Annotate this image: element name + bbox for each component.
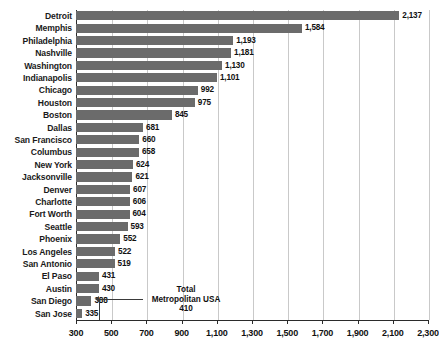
value-label: 335 [85, 308, 98, 320]
x-axis-tick [393, 320, 394, 324]
bar-row: Jacksonville621 [0, 171, 435, 183]
value-label: 1,181 [234, 47, 254, 59]
value-label: 604 [133, 208, 146, 220]
value-label: 681 [146, 122, 159, 134]
annotation-label-line1: Total [144, 285, 228, 295]
value-label: 606 [133, 196, 146, 208]
x-axis-tick-label: 1,300 [241, 328, 263, 338]
x-axis-tick [217, 320, 218, 324]
bar [76, 247, 115, 256]
bar [76, 11, 399, 20]
value-label: 621 [135, 171, 148, 183]
annotation-label-line2: Metropolitan USA [144, 295, 228, 305]
value-label: 992 [201, 84, 214, 96]
x-axis-tick-label: 300 [69, 328, 83, 338]
category-label: San Diego [0, 295, 76, 307]
bar [76, 160, 133, 169]
annotation-label-line3: 410 [144, 304, 228, 314]
annotation-leader-line [99, 299, 143, 300]
value-label: 658 [142, 146, 155, 158]
bar-row: Fort Worth604 [0, 208, 435, 220]
bar [76, 73, 217, 82]
x-axis-tick-label: 900 [174, 328, 188, 338]
bar-row: Philadelphia1,193 [0, 35, 435, 47]
bar [76, 98, 195, 107]
bar-row: Nashville1,181 [0, 47, 435, 59]
category-label: El Paso [0, 270, 76, 282]
x-axis-tick [287, 320, 288, 324]
x-axis-tick-label: 700 [139, 328, 153, 338]
bar [76, 172, 132, 181]
category-label: San Francisco [0, 134, 76, 146]
bar [76, 185, 130, 194]
x-axis-tick-label: 1,500 [276, 328, 298, 338]
bar-row: Detroit2,137 [0, 10, 435, 22]
category-label: Denver [0, 184, 76, 196]
category-label: Charlotte [0, 196, 76, 208]
x-axis-tick [322, 320, 323, 324]
value-label: 624 [136, 159, 149, 171]
bar [76, 222, 128, 231]
category-label: Los Angeles [0, 246, 76, 258]
bar [76, 259, 115, 268]
category-label: Memphis [0, 22, 76, 34]
value-label: 522 [118, 246, 131, 258]
value-label: 1,130 [225, 60, 245, 72]
x-axis-tick [76, 320, 77, 324]
category-label: Columbus [0, 146, 76, 158]
category-label: Philadelphia [0, 35, 76, 47]
category-label: Nashville [0, 47, 76, 59]
x-axis-tick [358, 320, 359, 324]
x-axis-tick-label: 1,900 [347, 328, 369, 338]
bar-row: New York624 [0, 159, 435, 171]
category-label: Houston [0, 97, 76, 109]
bar [76, 309, 82, 318]
bar [76, 148, 139, 157]
bar-row: Washington1,130 [0, 60, 435, 72]
value-label: 430 [102, 283, 115, 295]
category-label: Chicago [0, 84, 76, 96]
value-label: 593 [131, 221, 144, 233]
bar [76, 110, 172, 119]
x-axis-tick [146, 320, 147, 324]
category-label: New York [0, 159, 76, 171]
bar [76, 135, 139, 144]
bar-row: San Francisco660 [0, 134, 435, 146]
x-axis-tick [182, 320, 183, 324]
category-label: Dallas [0, 122, 76, 134]
category-label: Austin [0, 283, 76, 295]
bar [76, 86, 198, 95]
bar-row: Seattle593 [0, 221, 435, 233]
bar [76, 296, 91, 305]
x-axis-tick-label: 1,100 [206, 328, 228, 338]
x-axis-tick [252, 320, 253, 324]
value-label: 431 [102, 270, 115, 282]
category-label: San Antonio [0, 258, 76, 270]
category-label: San Jose [0, 308, 76, 320]
bar-row: Charlotte606 [0, 196, 435, 208]
category-label: Detroit [0, 10, 76, 22]
value-label: 2,137 [402, 10, 422, 22]
x-axis-tick-label: 1,700 [312, 328, 334, 338]
bar-row: Denver607 [0, 184, 435, 196]
category-label: Seattle [0, 221, 76, 233]
bar [76, 48, 231, 57]
value-label: 519 [118, 258, 131, 270]
category-label: Phoenix [0, 233, 76, 245]
x-axis-tick-label: 2,100 [382, 328, 404, 338]
bar [76, 210, 130, 219]
bar-row: Phoenix552 [0, 233, 435, 245]
value-label: 660 [142, 134, 155, 146]
bar [76, 272, 99, 281]
value-label: 552 [123, 233, 136, 245]
bar-row: Memphis1,584 [0, 22, 435, 34]
x-axis-tick-label: 500 [104, 328, 118, 338]
category-label: Washington [0, 60, 76, 72]
bar [76, 24, 302, 33]
bar [76, 36, 233, 45]
value-label: 1,584 [305, 22, 325, 34]
x-axis-tick-label: 2,300 [417, 328, 439, 338]
bar [76, 284, 99, 293]
bar-row: Columbus658 [0, 146, 435, 158]
